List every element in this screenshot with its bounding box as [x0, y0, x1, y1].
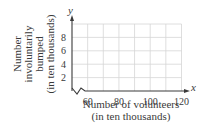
y-axis-label: Numberinvoluntarilybumped(in ten thousan… [2, 14, 66, 94]
x-axis-break-icon [72, 88, 186, 94]
y-axis-symbol: y [67, 4, 73, 16]
grid [72, 24, 182, 91]
tick-labels: 60801001202468 [61, 32, 189, 107]
x-axis-arrow-icon [184, 89, 190, 93]
x-axis-label: Number of volunteers(in ten thousands) [66, 98, 196, 122]
chart: 60801001202468 y x Numberinvoluntarilybu… [0, 0, 203, 133]
x-axis-label-line: Number of volunteers [66, 98, 196, 110]
x-axis-label-line: (in ten thousands) [66, 110, 196, 122]
x-axis-symbol: x [190, 81, 196, 93]
y-axis-label-line: (in ten thousands) [45, 15, 56, 94]
